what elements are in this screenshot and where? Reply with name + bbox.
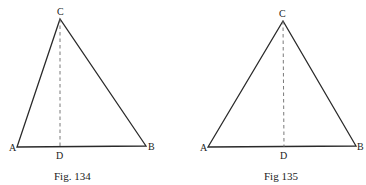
vertex-label-d: D xyxy=(56,150,63,161)
vertex-label-c: C xyxy=(57,6,64,17)
vertex-label-d: D xyxy=(280,150,287,161)
figure-caption: Fig 135 xyxy=(264,170,298,182)
vertex-label-c: C xyxy=(279,8,286,19)
altitude-cd xyxy=(283,21,284,147)
triangle-abc xyxy=(17,19,146,147)
diagram-canvas: C A B D Fig. 134 C A B D Fig 135 xyxy=(0,0,366,185)
triangle-abc xyxy=(208,21,356,147)
vertex-label-a: A xyxy=(200,142,208,153)
vertex-label-a: A xyxy=(9,142,17,153)
figure-135: C A B D Fig 135 xyxy=(200,8,364,182)
vertex-label-b: B xyxy=(148,141,155,152)
vertex-label-b: B xyxy=(357,141,364,152)
figure-134: C A B D Fig. 134 xyxy=(9,6,155,182)
figure-caption: Fig. 134 xyxy=(54,170,91,182)
